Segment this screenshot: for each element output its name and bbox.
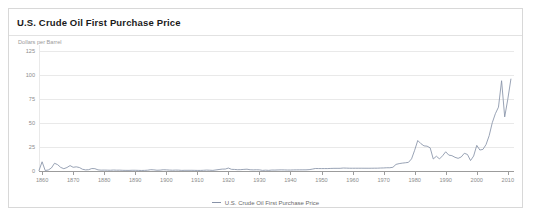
x-axis-tick-label: 1990 — [439, 177, 451, 183]
y-axis-tick-label: 50 — [29, 120, 35, 126]
chart-legend: U.S. Crude Oil First Purchase Price — [9, 193, 522, 211]
plot-area: 0255075100125 18601870188018901900191019… — [9, 9, 522, 207]
x-axis-tick-label: 1980 — [408, 177, 420, 183]
x-axis-group: 1860187018801890190019101920193019401950… — [36, 172, 514, 183]
x-axis-tick-label: 1860 — [36, 177, 48, 183]
y-axis-tick-label: 25 — [29, 144, 35, 150]
x-axis-tick-label: 2000 — [471, 177, 483, 183]
x-axis-tick-label: 1970 — [377, 177, 389, 183]
line-chart-svg: 0255075100125 18601870188018901900191019… — [9, 9, 522, 207]
x-axis-tick-label: 1910 — [191, 177, 203, 183]
data-series-line — [39, 79, 511, 170]
chart-card: U.S. Crude Oil First Purchase Price Doll… — [8, 8, 523, 208]
y-axis-tick-label: 125 — [26, 48, 35, 54]
legend-line-swatch-icon — [212, 202, 221, 203]
x-axis-tick-label: 1960 — [346, 177, 358, 183]
gridlines-group — [39, 45, 514, 171]
x-axis-tick-label: 1900 — [160, 177, 172, 183]
x-axis-tick-label: 1950 — [315, 177, 327, 183]
x-axis-tick-label: 1880 — [98, 177, 110, 183]
x-axis-tick-label: 1890 — [129, 177, 141, 183]
y-axis-tick-label: 75 — [29, 96, 35, 102]
data-series-group — [39, 79, 511, 170]
legend-entry-label: U.S. Crude Oil First Purchase Price — [225, 200, 319, 206]
x-axis-tick-label: 1940 — [284, 177, 296, 183]
y-axis-ticks-group: 0255075100125 — [26, 48, 35, 174]
y-axis-tick-label: 100 — [26, 72, 35, 78]
x-axis-tick-label: 1930 — [253, 177, 265, 183]
y-axis-tick-label: 0 — [32, 168, 35, 174]
x-axis-tick-label: 1920 — [222, 177, 234, 183]
x-axis-tick-label: 2010 — [502, 177, 514, 183]
x-axis-tick-label: 1870 — [67, 177, 79, 183]
